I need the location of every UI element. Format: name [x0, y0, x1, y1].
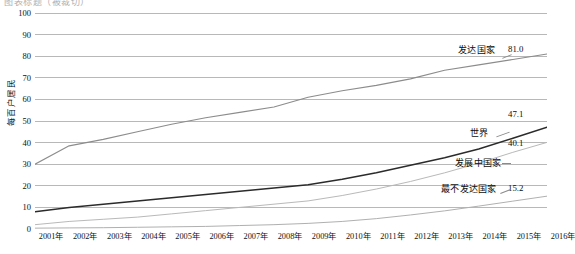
series-label-developing: 发展中国家	[455, 159, 502, 168]
series-value-developing: 40.1	[508, 139, 523, 148]
y-axis-tick-labels: 0102030405060708090100	[0, 0, 31, 254]
leader-line-developing	[502, 163, 511, 164]
gridlines	[35, 13, 547, 207]
y-tick-label: 100	[1, 9, 31, 18]
series-value-world: 47.1	[508, 110, 523, 119]
x-tick-label: 2010年	[346, 233, 371, 241]
x-tick-label: 2014年	[483, 233, 508, 241]
series-value-developed: 81.0	[508, 45, 523, 54]
x-tick-label: 2003年	[107, 233, 132, 241]
x-tick-label: 2004年	[141, 233, 166, 241]
y-tick-label: 50	[1, 117, 31, 126]
y-tick-label: 90	[1, 30, 31, 39]
x-tick-label: 2013年	[448, 233, 473, 241]
x-tick-label: 2002年	[73, 233, 98, 241]
series-lines	[35, 54, 547, 228]
x-tick-label: 2011年	[380, 233, 404, 241]
x-tick-label: 2001年	[39, 233, 64, 241]
x-tick-label: 2007年	[244, 233, 269, 241]
series-label-world: 世界	[470, 129, 489, 138]
x-tick-label: 2005年	[175, 233, 200, 241]
y-tick-label: 70	[1, 74, 31, 83]
series-label-developed: 发达国家	[458, 46, 495, 55]
x-tick-label: 2006年	[209, 233, 234, 241]
y-tick-label: 80	[1, 52, 31, 61]
y-tick-label: 40	[1, 138, 31, 147]
x-tick-label: 2009年	[312, 233, 337, 241]
y-tick-label: 30	[1, 160, 31, 169]
x-tick-label: 2008年	[278, 233, 303, 241]
x-tick-label: 2015年	[517, 233, 542, 241]
x-tick-label: 2016年	[551, 233, 575, 241]
series-label-least-developed: 最不发达国家	[441, 185, 497, 194]
x-tick-label: 2012年	[414, 233, 439, 241]
y-tick-label: 10	[1, 203, 31, 212]
y-tick-label: 60	[1, 95, 31, 104]
x-axis-tick-labels: 2001年2002年2003年2004年2005年2006年2007年2008年…	[0, 231, 553, 251]
y-tick-label: 20	[1, 182, 31, 191]
